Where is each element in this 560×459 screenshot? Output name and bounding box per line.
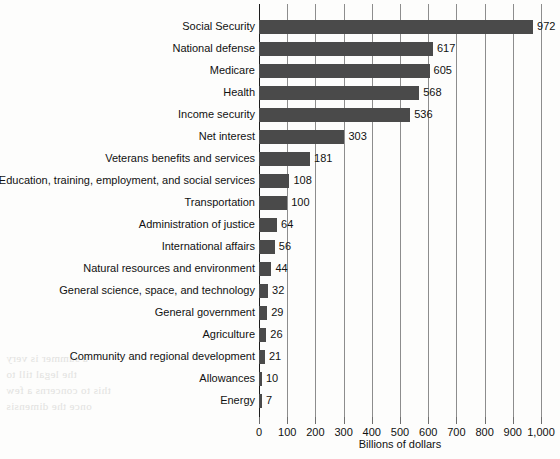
bar-value-label: 568 [423, 85, 441, 100]
category-label: Natural resources and environment [83, 261, 255, 276]
bar-row: Natural resources and environment44 [259, 258, 541, 280]
bar [259, 328, 266, 342]
plot-area: Social Security972National defense617Med… [259, 4, 541, 417]
bar-value-label: 972 [537, 19, 555, 34]
bar-value-label: 181 [314, 151, 332, 166]
bar-row: Allowances10 [259, 368, 541, 390]
bar [259, 86, 419, 100]
bar-row: Medicare605 [259, 60, 541, 82]
x-tick [315, 417, 316, 424]
bar [259, 218, 277, 232]
category-label: Education, training, employment, and soc… [0, 173, 255, 188]
bar [259, 64, 430, 78]
bar [259, 174, 289, 188]
bar-value-label: 617 [437, 41, 455, 56]
x-axis: 01002003004005006007008009001,000 [259, 417, 541, 425]
bar [259, 240, 275, 254]
bar-value-label: 303 [348, 129, 366, 144]
category-label: Health [223, 85, 255, 100]
category-label: Transportation [184, 195, 255, 210]
category-label: Allowances [199, 371, 255, 386]
bar-value-label: 108 [293, 173, 311, 188]
bar-value-label: 26 [270, 327, 282, 342]
bar-value-label: 10 [266, 371, 278, 386]
bar-value-label: 32 [272, 283, 284, 298]
category-label: General science, space, and technology [59, 283, 255, 298]
bar-row: Transportation100 [259, 192, 541, 214]
bar-row: Energy7 [259, 390, 541, 412]
bar-row: Veterans benefits and services181 [259, 148, 541, 170]
bar [259, 306, 267, 320]
bar-row: National defense617 [259, 38, 541, 60]
bar [259, 394, 262, 408]
category-label: Veterans benefits and services [105, 151, 255, 166]
x-tick [287, 417, 288, 424]
x-tick [541, 417, 542, 424]
x-tick [485, 417, 486, 424]
category-label: Community and regional development [70, 349, 255, 364]
bar-row: International affairs56 [259, 236, 541, 258]
category-label: Agriculture [202, 327, 255, 342]
x-tick [400, 417, 401, 424]
bar-row: General government29 [259, 302, 541, 324]
bar-row: Education, training, employment, and soc… [259, 170, 541, 192]
bar [259, 20, 533, 34]
bar [259, 350, 265, 364]
bar-row: Health568 [259, 82, 541, 104]
bar-row: Administration of justice64 [259, 214, 541, 236]
x-tick [259, 417, 260, 424]
x-tick [456, 417, 457, 424]
bar-value-label: 7 [266, 393, 272, 408]
bar-row: Net interest303 [259, 126, 541, 148]
bar [259, 196, 287, 210]
x-tick [344, 417, 345, 424]
bar-value-label: 64 [281, 217, 293, 232]
gridline-1000 [541, 4, 542, 417]
bar-row: General science, space, and technology32 [259, 280, 541, 302]
bar [259, 130, 344, 144]
bar-value-label: 21 [269, 349, 281, 364]
category-label: General government [155, 305, 255, 320]
bar [259, 284, 268, 298]
bar [259, 108, 410, 122]
category-label: Social Security [182, 19, 255, 34]
x-axis-title: Billions of dollars [259, 437, 541, 451]
bar-row: Agriculture26 [259, 324, 541, 346]
bar-value-label: 605 [434, 63, 452, 78]
x-tick [428, 417, 429, 424]
category-label: Medicare [210, 63, 255, 78]
bar-value-label: 29 [271, 305, 283, 320]
bar-value-label: 100 [291, 195, 309, 210]
bar [259, 42, 433, 56]
bar-value-label: 536 [414, 107, 432, 122]
category-label: Energy [220, 393, 255, 408]
category-label: Administration of justice [139, 217, 255, 232]
bar-row: Social Security972 [259, 16, 541, 38]
category-label: National defense [172, 41, 255, 56]
bar [259, 372, 262, 386]
category-label: Income security [178, 107, 255, 122]
category-label: Net interest [199, 129, 255, 144]
bar [259, 152, 310, 166]
x-tick [513, 417, 514, 424]
bar-value-label: 44 [275, 261, 287, 276]
budget-outlays-bar-chart: Social Security972National defense617Med… [0, 0, 560, 459]
bar-value-label: 56 [279, 239, 291, 254]
bar [259, 262, 271, 276]
category-label: International affairs [162, 239, 255, 254]
bar-row: Community and regional development21 [259, 346, 541, 368]
bar-row: Income security536 [259, 104, 541, 126]
x-tick [372, 417, 373, 424]
